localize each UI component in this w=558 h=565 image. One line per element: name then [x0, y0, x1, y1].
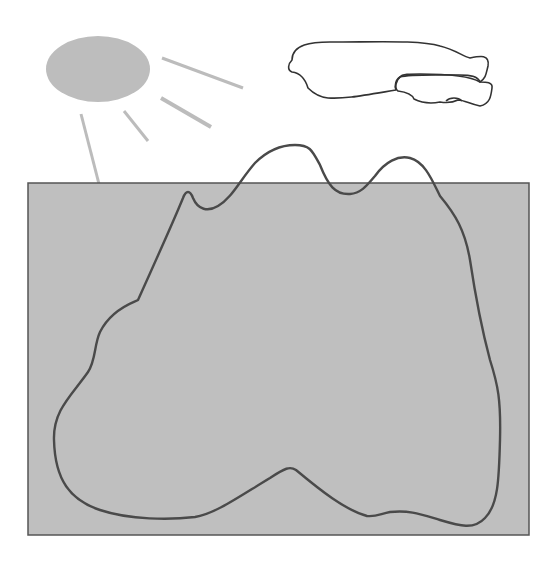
sun-ray	[162, 58, 243, 88]
cloud-icon	[289, 42, 492, 106]
diagram-svg	[0, 0, 558, 565]
diagram-canvas	[0, 0, 558, 565]
ground-rectangle	[28, 183, 529, 535]
sun-icon	[46, 36, 150, 102]
sun-ray	[81, 114, 99, 184]
sun-ray	[161, 98, 211, 127]
sun-ray	[124, 111, 148, 141]
